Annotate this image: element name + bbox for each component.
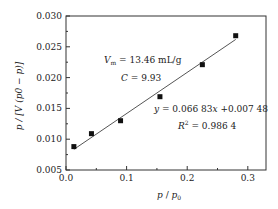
y-tick-label: 0.015 <box>36 103 62 113</box>
bet-plot: 0.0050.0100.0150.0200.0250.0300.00.10.20… <box>0 0 278 209</box>
data-point <box>89 131 94 136</box>
x-tick-label: 0.0 <box>59 173 74 183</box>
data-point <box>118 118 123 123</box>
r2-annotation: R2 = 0.986 4 <box>177 119 236 131</box>
data-point <box>200 62 205 67</box>
axis-ticks: 0.0050.0100.0150.0200.0250.0300.00.10.20… <box>36 11 255 183</box>
data-point <box>233 33 238 38</box>
plot-area-border <box>66 16 266 170</box>
plot-frame <box>66 16 266 170</box>
data-points <box>71 33 238 149</box>
x-tick-label: 0.3 <box>241 173 256 183</box>
data-point <box>157 94 162 99</box>
y-tick-label: 0.020 <box>36 73 62 83</box>
vm-annotation: Vm = 13.46 mL/g <box>104 55 182 66</box>
data-point <box>71 144 76 149</box>
c-annotation: C = 9.93 <box>121 73 161 83</box>
y-tick-label: 0.010 <box>36 134 62 144</box>
equation-annotation: y = 0.066 83x +0.007 48 <box>153 104 268 114</box>
y-tick-label: 0.030 <box>36 11 62 21</box>
x-tick-label: 0.2 <box>180 173 194 183</box>
x-tick-label: 0.1 <box>119 173 133 183</box>
y-axis-title: p / [V (p0 − p)] <box>14 61 24 130</box>
x-axis-title: p / p0 <box>157 190 181 201</box>
y-tick-label: 0.025 <box>36 42 62 52</box>
